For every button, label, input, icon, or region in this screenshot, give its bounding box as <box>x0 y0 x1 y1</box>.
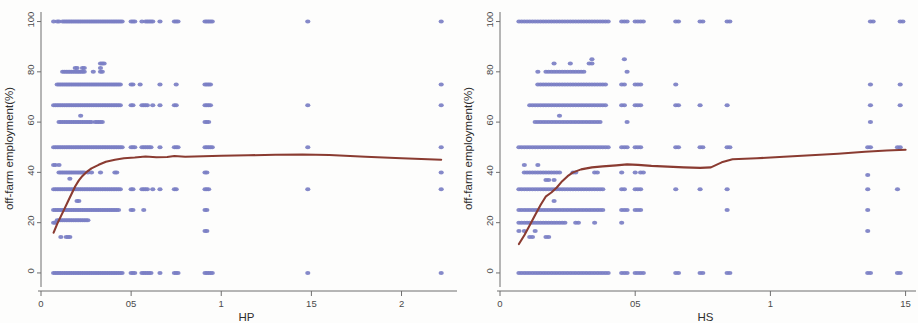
data-point <box>305 20 310 24</box>
y-tick-label: 0 <box>26 268 37 273</box>
data-point <box>865 208 870 212</box>
data-point <box>78 114 83 118</box>
data-point <box>865 229 870 233</box>
data-point <box>624 120 629 124</box>
data-point <box>622 103 627 107</box>
fitted-curve <box>54 155 442 233</box>
data-point <box>606 145 611 149</box>
data-point <box>725 103 730 107</box>
data-point <box>305 187 310 191</box>
data-point <box>727 145 732 149</box>
chart-panel-hp: 0204060801000051152HPoff-farm employment… <box>0 0 459 323</box>
data-point <box>74 66 79 70</box>
data-point <box>581 70 586 74</box>
y-tick-label: 60 <box>26 115 37 126</box>
data-point <box>865 173 870 177</box>
data-point <box>175 145 180 149</box>
data-point <box>600 187 605 191</box>
data-point <box>305 145 310 149</box>
data-point <box>697 103 702 107</box>
data-point <box>638 187 643 191</box>
data-point <box>624 70 629 74</box>
data-point <box>606 271 611 275</box>
data-point <box>622 57 627 61</box>
data-point <box>100 70 105 74</box>
data-point <box>619 170 624 174</box>
data-point <box>676 271 681 275</box>
data-point <box>439 187 444 191</box>
data-point <box>114 170 119 174</box>
data-point <box>595 170 600 174</box>
x-tick-label: 15 <box>306 298 317 309</box>
data-point <box>568 62 573 66</box>
y-tick-label: 20 <box>26 215 37 226</box>
x-tick-label: 0 <box>38 298 43 309</box>
data-point <box>439 82 444 86</box>
data-point <box>530 235 535 239</box>
data-point <box>210 20 215 24</box>
data-point <box>868 120 873 124</box>
data-point <box>120 20 125 24</box>
data-point <box>727 271 732 275</box>
data-point <box>116 208 121 212</box>
x-tick-label: 05 <box>126 298 137 309</box>
data-point <box>624 20 629 24</box>
x-tick-label: 05 <box>630 298 641 309</box>
data-point <box>638 208 643 212</box>
data-point <box>622 82 627 86</box>
scatter-plot-hs: 020406080100005115HSoff-farm employment(… <box>459 0 918 323</box>
y-tick-label: 40 <box>26 165 37 176</box>
data-point <box>210 145 215 149</box>
data-point <box>606 20 611 24</box>
y-axis-title: off-farm employment(%) <box>3 87 15 210</box>
data-point <box>900 20 905 24</box>
data-point <box>150 20 155 24</box>
figure-container: 0204060801000051152HPoff-farm employment… <box>0 0 918 323</box>
data-point <box>132 20 137 24</box>
data-point <box>676 103 681 107</box>
data-point <box>439 145 444 149</box>
data-point <box>546 235 551 239</box>
y-tick-label: 0 <box>485 268 496 273</box>
data-point <box>118 103 123 107</box>
data-point <box>871 20 876 24</box>
data-point <box>557 114 562 118</box>
data-point <box>535 70 540 74</box>
data-point <box>130 103 135 107</box>
data-point <box>132 271 137 275</box>
data-point <box>439 271 444 275</box>
data-point <box>91 70 96 74</box>
data-point <box>120 271 125 275</box>
data-point <box>85 218 90 222</box>
data-point <box>206 120 211 124</box>
data-point <box>148 271 153 275</box>
data-point <box>597 120 602 124</box>
data-point <box>898 103 903 107</box>
data-point <box>533 229 538 233</box>
data-point <box>576 221 581 225</box>
data-point <box>638 103 643 107</box>
y-tick-label: 80 <box>485 65 496 76</box>
data-point <box>622 187 627 191</box>
data-point <box>157 271 162 275</box>
y-tick-label: 100 <box>25 12 36 28</box>
data-point <box>120 145 125 149</box>
data-point <box>67 177 72 181</box>
scatter-points-group <box>516 20 905 275</box>
data-point <box>641 271 646 275</box>
data-point <box>98 66 103 70</box>
data-point <box>148 145 153 149</box>
data-point <box>145 187 150 191</box>
data-point <box>516 229 521 233</box>
data-point <box>439 103 444 107</box>
data-point <box>725 187 730 191</box>
x-tick-label: 15 <box>900 298 911 309</box>
data-point <box>638 82 643 86</box>
data-point <box>145 103 150 107</box>
data-point <box>898 82 903 86</box>
data-point <box>725 208 730 212</box>
data-point <box>130 82 135 86</box>
data-point <box>150 187 155 191</box>
data-point <box>82 66 87 70</box>
data-point <box>868 103 873 107</box>
